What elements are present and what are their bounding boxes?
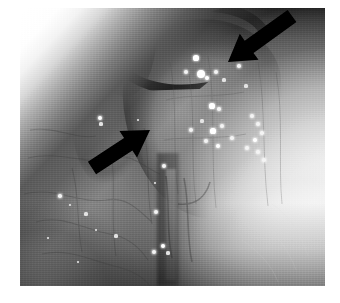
figure-page (0, 0, 340, 303)
arrow-left-icon (88, 130, 150, 174)
arrow-upper-right-icon (228, 10, 296, 62)
annotation-arrow-layer (20, 8, 325, 286)
endoscopic-photograph (20, 8, 325, 286)
